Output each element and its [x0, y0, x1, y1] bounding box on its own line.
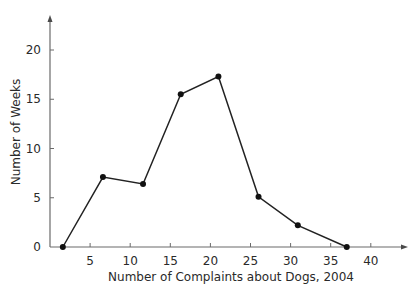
- x-tick-label: 10: [123, 254, 138, 268]
- data-point: [60, 244, 66, 250]
- x-axis-arrow-icon: [401, 245, 408, 250]
- data-point: [256, 194, 262, 200]
- x-tick-label: 40: [363, 254, 378, 268]
- data-point: [215, 74, 221, 80]
- series: [60, 74, 350, 250]
- x-tick-label: 25: [243, 254, 258, 268]
- y-tick-label: 0: [33, 240, 41, 254]
- series-line: [63, 77, 347, 247]
- y-axis-arrow-icon: [48, 15, 53, 22]
- y-tick-label: 15: [26, 92, 41, 106]
- axes: [48, 15, 409, 250]
- x-tick-label: 5: [86, 254, 94, 268]
- y-tick-label: 5: [33, 191, 41, 205]
- x-tick-label: 20: [203, 254, 218, 268]
- data-point: [100, 174, 106, 180]
- frequency-polygon-chart: 510152025303540 05101520 Number of Compl…: [0, 0, 420, 297]
- data-point: [295, 222, 301, 228]
- y-tick-label: 20: [26, 43, 41, 57]
- x-tick-label: 30: [283, 254, 298, 268]
- data-point: [344, 244, 350, 250]
- y-tick-label: 10: [26, 142, 41, 156]
- x-tick-label: 35: [323, 254, 338, 268]
- x-axis-label: Number of Complaints about Dogs, 2004: [108, 270, 354, 284]
- data-point: [140, 181, 146, 187]
- y-axis-label: Number of Weeks: [9, 79, 23, 186]
- x-tick-label: 15: [163, 254, 178, 268]
- data-point: [178, 91, 184, 97]
